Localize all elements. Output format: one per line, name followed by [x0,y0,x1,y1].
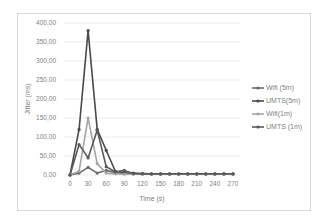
data-point-marker [177,172,180,175]
y-tick-label: 50,00 [40,152,57,159]
x-tick-label: 240 [209,180,220,187]
data-point-marker [77,143,80,146]
y-tick-label: 300,00 [36,57,56,64]
series-line [68,116,234,176]
data-point-marker [195,172,198,175]
data-point-marker [77,128,80,131]
data-point-marker [123,173,126,176]
series-line [68,29,234,177]
legend-item: Wifi (5m) [252,84,294,92]
data-point-marker [141,172,144,175]
x-tick-label: 60 [103,180,111,187]
data-point-marker [213,172,216,175]
y-tick-label: 400,00 [36,19,56,26]
y-tick-label: 250,00 [36,76,56,83]
legend-marker-icon [256,99,259,102]
legend-label: Wifi(1m) [266,110,292,118]
legend: Wifi (5m)UMTS(5m)Wifi(1m)UMTS (1m) [252,84,302,131]
data-point-marker [96,162,99,165]
legend-item: Wifi(1m) [252,110,292,118]
series-line [68,129,234,177]
data-point-marker [105,165,108,168]
data-point-marker [222,172,225,175]
y-tick-label: 0,00 [43,171,56,178]
data-point-marker [77,170,80,173]
data-point-marker [114,170,117,173]
x-tick-label: 90 [121,180,129,187]
legend-label: UMTS (1m) [266,123,302,131]
data-point-marker [96,172,99,175]
y-tick-label: 150,00 [36,114,56,121]
data-point-marker [159,172,162,175]
x-tick-label: 0 [68,180,72,187]
data-point-marker [186,172,189,175]
legend-item: UMTS(5m) [252,97,300,105]
data-series [68,29,234,177]
data-point-marker [105,149,108,152]
data-point-marker [87,166,90,169]
x-tick-label: 30 [84,180,92,187]
data-point-marker [150,172,153,175]
x-axis-title: Time (s) [139,195,164,203]
data-point-marker [87,116,90,119]
data-point-marker [204,172,207,175]
x-tick-label: 210 [191,180,202,187]
legend-item: UMTS (1m) [252,123,302,131]
legend-marker-icon [256,112,259,115]
data-point-marker [87,156,90,159]
y-tick-label: 100,00 [36,133,56,140]
line-chart: 0,0050,00100,00150,00200,00250,00300,003… [0,0,327,224]
x-tick-label: 180 [173,180,184,187]
data-point-marker [168,172,171,175]
y-axis-title: Jitter (ms) [24,83,32,114]
y-tick-label: 350,00 [36,38,56,45]
x-tick-label: 150 [155,180,166,187]
legend-label: UMTS(5m) [266,97,300,105]
x-tick-label: 270 [228,180,239,187]
data-point-marker [231,172,234,175]
legend-marker-icon [256,125,259,128]
y-tick-label: 200,00 [36,95,56,102]
data-point-marker [96,129,99,132]
data-point-marker [68,173,71,176]
data-point-marker [87,29,90,32]
y-axis-ticks: 0,0050,00100,00150,00200,00250,00300,003… [36,19,56,178]
legend-label: Wifi (5m) [266,84,294,92]
x-axis-ticks: 0306090120150180210240270 [68,180,239,187]
legend-marker-icon [256,86,259,89]
data-point-marker [132,172,135,175]
data-point-marker [105,172,108,175]
x-tick-label: 120 [137,180,148,187]
data-point-marker [123,169,126,172]
